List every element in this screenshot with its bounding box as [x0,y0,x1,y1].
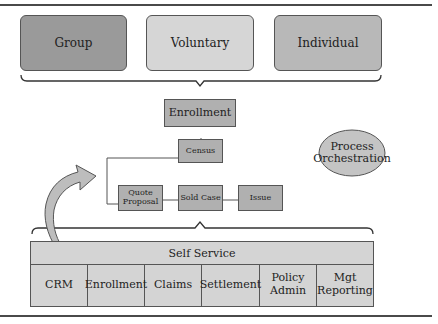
module-settlement: Settlement [202,264,260,306]
module-enrollment: Enrollment [88,264,145,306]
process-orchestration-label: Process Orchestration [313,141,391,165]
self-service-label: Self Service [169,247,236,260]
self-service-panel: Self Service CRM Enrollment Claims Settl… [30,241,374,307]
step-sold-case-label: Sold Case [180,194,220,203]
module-enrollment-label: Enrollment [85,279,147,292]
step-issue: Issue [238,185,283,211]
step-sold-case: Sold Case [178,185,223,211]
census-label: Census [186,147,215,156]
module-policy-admin: Policy Admin [260,264,317,306]
module-crm-label: CRM [45,279,73,292]
module-mgt-reporting-label: Mgt Reporting [317,272,373,297]
module-claims-label: Claims [154,279,192,292]
module-crm: CRM [31,264,88,306]
step-quote-proposal-label: Quote Proposal [119,189,162,207]
enrollment-label: Enrollment [169,107,231,119]
process-orchestration: Process Orchestration [319,130,385,176]
census-box: Census [178,139,223,163]
module-mgt-reporting: Mgt Reporting [317,264,373,306]
module-claims: Claims [145,264,202,306]
enrollment-box: Enrollment [164,99,236,127]
module-settlement-label: Settlement [200,279,261,292]
step-quote-proposal: Quote Proposal [118,185,163,211]
step-issue-label: Issue [250,194,271,203]
module-policy-admin-label: Policy Admin [260,272,316,297]
self-service-header: Self Service [31,242,373,265]
